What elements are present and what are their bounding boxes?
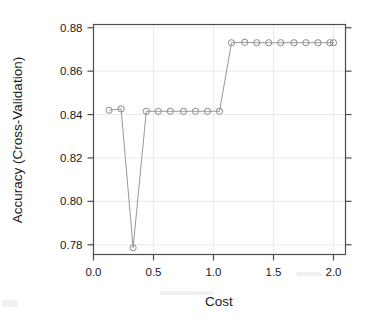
x-axis-tick-label: 1.0 bbox=[206, 266, 222, 278]
x-axis-tick-label: 1.5 bbox=[266, 266, 282, 278]
y-axis-tick-label: 0.84 bbox=[60, 109, 83, 121]
x-axis-tick-label: 0.0 bbox=[86, 266, 102, 278]
y-axis-tick-label: 0.82 bbox=[60, 152, 82, 164]
x-axis-tick-label: 0.5 bbox=[146, 266, 162, 278]
x-axis-title: Cost bbox=[205, 294, 233, 309]
y-axis-title: Accuracy (Cross-Validation) bbox=[10, 57, 25, 223]
accuracy-vs-cost-chart: 0.780.800.820.840.860.88 0.00.51.01.52.0… bbox=[0, 0, 376, 323]
x-axis-tick-label: 2.0 bbox=[326, 266, 342, 278]
y-axis-tick-label: 0.88 bbox=[60, 22, 82, 34]
y-axis-tick-label: 0.86 bbox=[60, 65, 82, 77]
chart-container: 0.780.800.820.840.860.88 0.00.51.01.52.0… bbox=[0, 0, 376, 323]
y-axis-tick-label: 0.78 bbox=[60, 239, 82, 251]
y-axis-tick-label: 0.80 bbox=[60, 195, 82, 207]
